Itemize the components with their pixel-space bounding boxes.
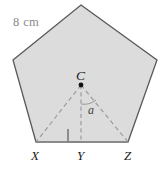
vertex-label-x: X bbox=[31, 149, 39, 162]
side-length-label: 8 cm bbox=[13, 16, 39, 29]
apothem-label-a: a bbox=[88, 104, 94, 116]
vertex-label-z: Z bbox=[124, 149, 131, 162]
midpoint-label-y: Y bbox=[77, 149, 84, 162]
center-label-c: C bbox=[76, 69, 85, 83]
geometry-figure: 8 cm C a X Y Z bbox=[0, 0, 168, 172]
center-point-dot bbox=[79, 83, 84, 88]
